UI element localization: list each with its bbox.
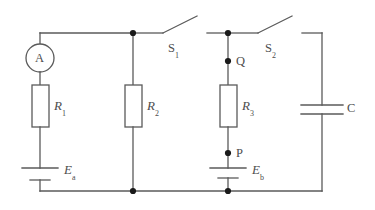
- battery-ea-label-main: E: [64, 162, 72, 177]
- ammeter-label: A: [35, 52, 44, 65]
- switch-s2-label-sub: 2: [272, 51, 276, 60]
- junction-dot-bottom-right: [225, 188, 231, 194]
- junction-dot-top-left: [130, 30, 136, 36]
- capacitor-label: C: [347, 102, 355, 115]
- battery-eb-label-main: E: [252, 162, 260, 177]
- resistor-r3-body: [220, 85, 237, 127]
- junction-dot-p: [225, 150, 231, 156]
- switch-s2-label: S2: [265, 42, 276, 58]
- battery-eb-label-sub: b: [260, 173, 264, 182]
- node-label-p: P: [236, 147, 243, 160]
- switch-s1-label: S1: [168, 42, 179, 58]
- resistor-r2-label-main: R: [147, 98, 155, 113]
- resistor-r1-body: [32, 85, 49, 127]
- resistor-r2-body: [125, 85, 142, 127]
- switch-s2-lever[interactable]: [258, 16, 292, 33]
- junction-dot-top-right: [225, 30, 231, 36]
- switch-s2-label-main: S: [265, 41, 272, 55]
- switch-s1-lever[interactable]: [163, 16, 197, 33]
- resistor-r1-label-main: R: [54, 98, 62, 113]
- resistor-r3-label-sub: 3: [250, 109, 254, 118]
- battery-ea-label: Ea: [64, 163, 76, 180]
- junction-dot-bottom-left: [130, 188, 136, 194]
- resistor-r2-label-sub: 2: [155, 109, 159, 118]
- battery-ea-label-sub: a: [72, 173, 76, 182]
- resistor-r1-label: R1: [54, 99, 66, 116]
- circuit-diagram-canvas: A R1 R2 R3 Ea Eb C S1 S2 Q P: [0, 0, 375, 210]
- resistor-r3-label: R3: [242, 99, 254, 116]
- battery-eb-label: Eb: [252, 163, 264, 180]
- node-label-q: Q: [236, 55, 245, 68]
- resistor-r2-label: R2: [147, 99, 159, 116]
- switch-s1-label-sub: 1: [175, 51, 179, 60]
- switch-s1-label-main: S: [168, 41, 175, 55]
- resistor-r3-label-main: R: [242, 98, 250, 113]
- resistor-r1-label-sub: 1: [62, 109, 66, 118]
- junction-dot-q: [225, 58, 231, 64]
